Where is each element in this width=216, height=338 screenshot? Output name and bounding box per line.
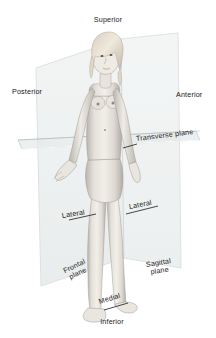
- label-inferior: Inferior: [82, 318, 142, 326]
- anatomy-illustration: [0, 0, 216, 338]
- label-anterior: Anterior: [176, 91, 202, 99]
- label-superior: Superior: [78, 16, 138, 24]
- label-posterior: Posterior: [12, 88, 42, 96]
- anatomical-planes-diagram: Superior Posterior Anterior Transverse p…: [0, 0, 216, 338]
